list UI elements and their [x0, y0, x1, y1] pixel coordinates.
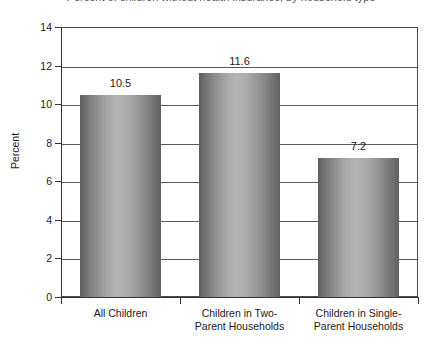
category-label: Children in Two- Parent Households: [176, 307, 304, 332]
category-label: Children in Single- Parent Households: [295, 307, 423, 332]
bar-value-label: 11.6: [200, 56, 280, 67]
x-axis-line: [61, 297, 419, 298]
y-tick-mark: [55, 27, 61, 28]
y-tick-label: 6: [24, 176, 52, 187]
y-tick-label: 2: [24, 253, 52, 264]
y-tick-label: 10: [24, 99, 52, 110]
category-label: All Children: [57, 307, 185, 320]
y-tick-label: 8: [24, 138, 52, 149]
y-tick-mark: [55, 143, 61, 144]
bar-value-label: 10.5: [81, 78, 161, 89]
y-axis-title: Percent: [9, 121, 21, 181]
x-tick-mark: [418, 298, 419, 304]
y-tick-mark: [55, 258, 61, 259]
y-tick-label: 0: [24, 292, 52, 303]
bar: [80, 95, 161, 298]
bar-value-label: 7.2: [319, 141, 399, 152]
x-tick-mark: [299, 298, 300, 304]
x-tick-mark: [180, 298, 181, 304]
y-tick-label: 12: [24, 61, 52, 72]
y-tick-label: 14: [24, 22, 52, 33]
y-tick-mark: [55, 181, 61, 182]
bar: [318, 158, 399, 297]
x-tick-mark: [61, 298, 62, 304]
y-tick-mark: [55, 104, 61, 105]
bar: [199, 73, 280, 297]
chart-title: Percent of children without health insur…: [0, 0, 442, 3]
bar-chart: Percent of children without health insur…: [0, 0, 442, 345]
y-tick-label: 4: [24, 215, 52, 226]
y-axis-line: [61, 27, 62, 298]
y-tick-mark: [55, 220, 61, 221]
y-tick-mark: [55, 66, 61, 67]
